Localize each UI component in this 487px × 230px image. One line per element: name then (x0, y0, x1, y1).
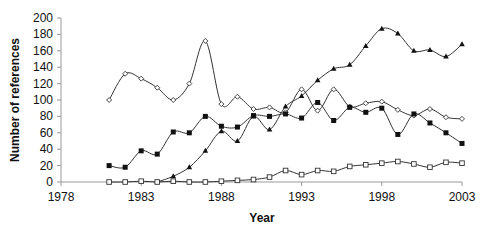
open-square-marker (203, 180, 208, 185)
y-tick-label: 180 (33, 27, 53, 41)
diamond-marker (460, 116, 465, 121)
y-tick-label: 80 (40, 109, 54, 123)
square-marker (315, 100, 320, 105)
square-marker (155, 152, 160, 157)
square-marker (107, 163, 112, 168)
series-diamond-open (107, 38, 465, 121)
open-square-marker (428, 165, 433, 170)
diamond-marker (171, 98, 176, 103)
square-marker (411, 111, 416, 116)
x-tick-label: 1988 (208, 190, 235, 204)
triangle-marker (411, 48, 417, 53)
open-square-marker (412, 162, 417, 167)
series-group (107, 26, 465, 185)
open-square-marker (187, 180, 192, 185)
x-tick-label: 1993 (288, 190, 315, 204)
open-square-marker (267, 175, 272, 180)
diamond-marker (379, 99, 384, 104)
open-square-marker (460, 161, 465, 166)
diamond-marker (331, 87, 336, 92)
square-marker (395, 132, 400, 137)
y-tick-label: 120 (33, 77, 53, 91)
open-square-marker (251, 177, 256, 182)
open-square-marker (171, 179, 176, 184)
y-tick-label: 40 (40, 142, 54, 156)
open-square-marker (396, 159, 401, 164)
square-marker (283, 111, 288, 116)
square-marker (123, 165, 128, 170)
diamond-marker (251, 107, 256, 112)
y-tick-label: 0 (46, 175, 53, 189)
triangle-marker (459, 41, 465, 46)
y-axis-title: Number of references (8, 38, 22, 162)
y-tick-label: 200 (33, 11, 53, 25)
open-square-marker (315, 168, 320, 173)
series-triangle-filled (154, 26, 464, 184)
diamond-marker (299, 87, 304, 92)
x-tick-label: 1983 (128, 190, 155, 204)
diamond-marker (107, 98, 112, 103)
y-tick-label: 100 (33, 93, 53, 107)
open-square-marker (363, 162, 368, 167)
y-tick-label: 20 (40, 159, 54, 173)
x-tick-label: 1998 (368, 190, 395, 204)
square-marker (299, 116, 304, 121)
square-marker (203, 114, 208, 119)
square-marker (347, 105, 352, 110)
y-tick-label: 160 (33, 44, 53, 58)
square-marker (363, 110, 368, 115)
line-chart: 0204060801001201401601802001978198319881… (0, 0, 487, 230)
x-tick-label: 1978 (48, 190, 75, 204)
square-marker (331, 118, 336, 123)
y-tick-label: 140 (33, 60, 53, 74)
square-marker (267, 114, 272, 119)
diamond-marker (203, 38, 208, 43)
square-marker (235, 125, 240, 130)
triangle-marker (219, 128, 225, 133)
diamond-marker (187, 81, 192, 86)
open-square-marker (380, 161, 385, 166)
diamond-marker (443, 115, 448, 120)
square-marker (460, 141, 465, 146)
x-tick-label: 2003 (449, 190, 476, 204)
open-square-marker (123, 180, 128, 185)
open-square-marker (444, 160, 449, 165)
open-square-marker (235, 178, 240, 183)
triangle-marker (395, 31, 401, 36)
square-marker (139, 148, 144, 153)
diamond-marker (395, 107, 400, 112)
diamond-marker (139, 76, 144, 81)
open-square-marker (283, 168, 288, 173)
series-line (157, 28, 462, 182)
square-marker (427, 120, 432, 125)
square-marker (379, 106, 384, 111)
open-square-marker (155, 180, 160, 185)
square-marker (187, 130, 192, 135)
diamond-marker (363, 101, 368, 106)
diamond-marker (267, 105, 272, 110)
diamond-marker (315, 108, 320, 113)
open-square-marker (107, 180, 112, 185)
diamond-marker (235, 94, 240, 99)
open-square-marker (299, 172, 304, 177)
square-marker (219, 124, 224, 129)
open-square-marker (331, 169, 336, 174)
open-square-marker (347, 164, 352, 169)
diamond-marker (427, 107, 432, 112)
square-marker (171, 129, 176, 134)
x-axis-title: Year (249, 211, 275, 225)
open-square-marker (219, 179, 224, 184)
square-marker (443, 130, 448, 135)
open-square-marker (139, 179, 144, 184)
y-tick-label: 60 (40, 126, 54, 140)
